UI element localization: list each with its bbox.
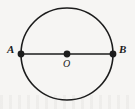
point-label-o: O — [63, 58, 70, 69]
point-marker-a — [18, 51, 25, 58]
diagram-canvas — [0, 0, 135, 109]
point-marker-b — [110, 51, 117, 58]
circle-diagram-figure: A O B — [0, 0, 135, 109]
point-label-b: B — [119, 44, 126, 55]
point-label-a: A — [7, 44, 14, 55]
point-marker-o — [64, 51, 71, 58]
